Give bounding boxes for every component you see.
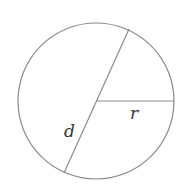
diameter-label: d (64, 121, 75, 141)
radius-label: r (130, 103, 139, 123)
circle-diagram: d r (0, 0, 186, 188)
